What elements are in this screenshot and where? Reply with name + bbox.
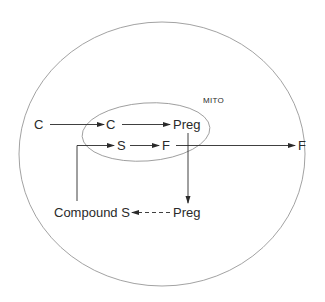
diagram-canvas: MITO C C Preg S F F Compound S Preg [0, 0, 325, 302]
node-f-outside: F [298, 138, 306, 153]
arrow-compound-s-to-s [77, 146, 114, 202]
node-f-mito: F [162, 138, 170, 153]
node-c-mito: C [106, 117, 115, 132]
node-s-mito: S [117, 138, 126, 153]
node-c-outside: C [34, 117, 43, 132]
node-preg-mito: Preg [173, 117, 200, 132]
cell-boundary [19, 22, 305, 286]
node-compound-s: Compound S [54, 205, 130, 220]
mito-label: MITO [203, 96, 224, 105]
mitochondrion-boundary [80, 99, 212, 166]
node-preg-cyto: Preg [173, 205, 200, 220]
